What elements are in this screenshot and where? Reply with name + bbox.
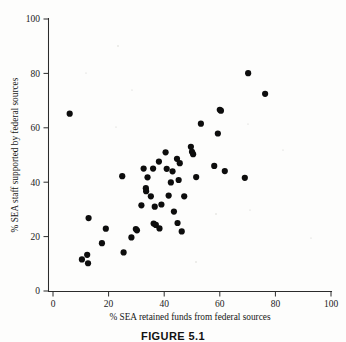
data-point (134, 227, 140, 233)
data-point (245, 70, 251, 76)
y-tick-label: 0 (35, 286, 40, 296)
data-point (144, 174, 150, 180)
data-point (179, 228, 185, 234)
data-point (162, 149, 168, 155)
data-point (148, 193, 154, 199)
axes-layer (49, 19, 332, 292)
data-point (174, 220, 180, 226)
x-tick-label: 20 (104, 299, 114, 309)
data-point (190, 151, 196, 157)
data-point (143, 188, 149, 194)
x-tick-label: 80 (271, 299, 281, 309)
data-point (141, 166, 147, 172)
data-point (99, 240, 105, 246)
y-tick-label: 20 (31, 232, 41, 242)
data-point (242, 175, 248, 181)
data-point (156, 158, 162, 164)
data-point (169, 168, 175, 174)
data-point (119, 173, 125, 179)
data-point (128, 234, 134, 240)
y-tick-label: 40 (31, 178, 41, 188)
x-axis-title: % SEA retained funds from federal source… (109, 312, 270, 322)
data-point (262, 91, 268, 97)
data-point (158, 201, 164, 207)
data-point (103, 226, 109, 232)
y-axis-title: % SEA staff supported by federal sources (10, 77, 20, 232)
data-point (193, 174, 199, 180)
data-point (171, 208, 177, 214)
data-point (150, 166, 156, 172)
data-point (176, 177, 182, 183)
y-tick-label: 100 (26, 14, 41, 24)
data-point (168, 179, 174, 185)
x-tick-label: 100 (324, 299, 339, 309)
data-point (181, 193, 187, 199)
y-tick-label: 60 (31, 123, 41, 133)
figure-caption: FIGURE 5.1 (0, 330, 346, 342)
data-point (218, 108, 224, 114)
y-tick-label: 80 (31, 69, 41, 79)
scan-noise-layer (85, 45, 311, 262)
x-tick-label: 0 (51, 299, 56, 309)
data-point (84, 252, 90, 258)
data-point (121, 249, 127, 255)
data-point (211, 163, 217, 169)
data-point (198, 121, 204, 127)
data-point (138, 202, 144, 208)
data-point-layer (67, 70, 269, 266)
data-point (222, 168, 228, 174)
data-point (177, 160, 183, 166)
scatter-plot-svg: 020406080100020406080100 % SEA retained … (0, 0, 346, 342)
scatter-figure: 020406080100020406080100 % SEA retained … (0, 0, 346, 342)
x-tick-label: 40 (159, 299, 169, 309)
data-point (166, 192, 172, 198)
x-tick-label: 60 (215, 299, 225, 309)
data-point (215, 130, 221, 136)
data-point (156, 225, 162, 231)
figure-page: 020406080100020406080100 % SEA retained … (0, 0, 346, 342)
data-point (85, 260, 91, 266)
data-point (164, 166, 170, 172)
data-point (152, 204, 158, 210)
data-point (85, 215, 91, 221)
data-point (67, 111, 73, 117)
data-point (79, 256, 85, 262)
